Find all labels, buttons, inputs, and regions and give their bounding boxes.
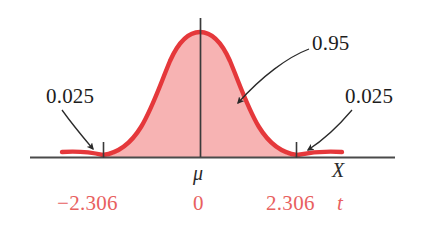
leader-arrow-right-tail: [308, 110, 352, 150]
x-axis-symbol-label: X: [332, 160, 344, 180]
tick-label-right-critical-value: 2.306: [266, 193, 315, 214]
leader-arrow-central-area: [238, 49, 309, 103]
tick-label-center-value: 0: [193, 193, 204, 214]
t-axis-symbol-label: t: [337, 193, 343, 214]
annotation-left-tail-probability: 0.025: [46, 86, 94, 107]
annotation-central-area-probability: 0.95: [312, 33, 350, 54]
annotation-right-tail-probability: 0.025: [345, 86, 393, 107]
mean-symbol-label: μ: [193, 163, 203, 183]
tick-label-left-critical-value: −2.306: [57, 193, 118, 214]
statistics-figure: 0.025 0.95 0.025 μ X −2.306 0 2.306 t: [0, 0, 422, 234]
leader-arrow-left-tail: [62, 110, 93, 149]
